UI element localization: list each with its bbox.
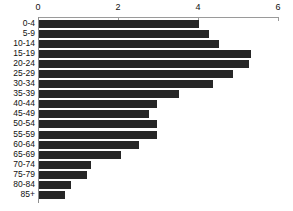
category-label: 65-69	[13, 149, 35, 159]
category-label: 85+	[21, 189, 35, 199]
x-tick-label-6: 6	[268, 2, 288, 12]
x-axis-line	[38, 17, 278, 18]
bar	[39, 131, 157, 139]
category-label: 80-84	[13, 179, 35, 189]
category-label: 75-79	[13, 169, 35, 179]
bar	[39, 40, 219, 48]
bar	[39, 80, 213, 88]
bar-row: 40-44	[39, 99, 292, 109]
bar	[39, 60, 249, 68]
category-label: 25-29	[13, 68, 35, 78]
bar-row: 45-49	[39, 109, 292, 119]
bar	[39, 90, 179, 98]
bar	[39, 151, 121, 159]
category-label: 45-49	[13, 108, 35, 118]
x-tick-label-0: 0	[28, 2, 48, 12]
bar-row: 65-69	[39, 150, 292, 160]
bar	[39, 100, 157, 108]
bar-row: 20-24	[39, 59, 292, 69]
bar	[39, 171, 87, 179]
plot-area: 0-45-910-1415-1920-2425-2930-3435-3940-4…	[39, 19, 292, 201]
category-label: 10-14	[13, 38, 35, 48]
category-label: 70-74	[13, 159, 35, 169]
category-label: 5-9	[23, 28, 35, 38]
bar	[39, 191, 65, 199]
bar	[39, 181, 71, 189]
bar	[39, 120, 157, 128]
bar	[39, 141, 139, 149]
bar-row: 5-9	[39, 29, 292, 39]
bar	[39, 30, 209, 38]
bar-row: 25-29	[39, 69, 292, 79]
category-label: 0-4	[23, 18, 35, 28]
bar	[39, 20, 199, 28]
bar-row: 50-54	[39, 119, 292, 129]
bar-row: 70-74	[39, 160, 292, 170]
bar-row: 35-39	[39, 89, 292, 99]
bar-row: 75-79	[39, 170, 292, 180]
category-label: 40-44	[13, 98, 35, 108]
bar	[39, 50, 251, 58]
category-label: 35-39	[13, 88, 35, 98]
category-label: 50-54	[13, 118, 35, 128]
bar-row: 85+	[39, 190, 292, 200]
bar-chart: 0 2 4 6 0-45-910-1415-1920-2425-2930-343…	[0, 0, 293, 211]
bar-row: 80-84	[39, 180, 292, 190]
x-tick-label-4: 4	[188, 2, 208, 12]
bar-row: 55-59	[39, 130, 292, 140]
bar-row: 15-19	[39, 49, 292, 59]
bar-row: 60-64	[39, 140, 292, 150]
category-label: 15-19	[13, 48, 35, 58]
category-label: 55-59	[13, 129, 35, 139]
x-tick-label-2: 2	[108, 2, 128, 12]
category-label: 60-64	[13, 139, 35, 149]
bar-row: 30-34	[39, 79, 292, 89]
bar-row: 0-4	[39, 19, 292, 29]
bar-row: 10-14	[39, 39, 292, 49]
bar	[39, 110, 149, 118]
category-label: 30-34	[13, 78, 35, 88]
category-label: 20-24	[13, 58, 35, 68]
bar	[39, 161, 91, 169]
bar	[39, 70, 233, 78]
